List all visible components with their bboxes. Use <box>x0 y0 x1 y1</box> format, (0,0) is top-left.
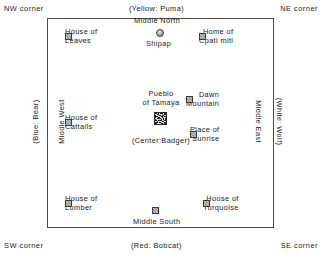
place-entry-house-of-cattails: House of Cattails <box>65 113 97 131</box>
clan-label-west: (Blue: Bear) <box>31 92 40 152</box>
place-entry-home-of-cpati-miti: Home of Cpati miti <box>199 27 233 45</box>
square-marker-icon-house-of-lumber <box>65 200 72 207</box>
place-entry-house-of-turquoise: House of Turquoise <box>203 194 239 212</box>
corner-label-nw: NW corner <box>4 4 44 13</box>
middle-label-south: Middle South <box>133 217 180 226</box>
square-marker-icon-home-of-cpati-miti <box>199 33 206 40</box>
directional-diagram: NW corner NE corner SW corner SE corner … <box>0 0 322 256</box>
square-marker-icon-place-of-sunrise <box>190 131 197 138</box>
place-entry-dawn-mountain: Dawn Mountain <box>186 90 219 108</box>
pueblo-glyph-icon <box>154 112 167 125</box>
place-label-line1: Dawn <box>199 90 219 99</box>
square-marker-icon-house-of-leaves <box>65 33 72 40</box>
corner-label-ne: NE corner <box>280 4 318 13</box>
corner-label-sw: SW corner <box>4 241 43 250</box>
corner-label-se: SE corner <box>281 241 318 250</box>
center-name-line1: Pueblo <box>148 89 173 98</box>
clan-label-south: (Red: Bobcat) <box>131 241 182 250</box>
place-label-line1: Home of <box>203 27 233 36</box>
square-marker-icon-dawn-mountain <box>186 96 193 103</box>
place-entry-house-of-lumber: House of Lumber <box>65 194 97 212</box>
place-entry-place-of-sunrise: Place of Sunrise <box>190 125 220 143</box>
square-marker-icon-middle-south <box>152 207 159 214</box>
place-entry-house-of-leaves: House of Leaves <box>65 27 97 45</box>
circle-marker-icon-shipap <box>156 29 164 37</box>
middle-label-east: Middle East <box>253 91 262 153</box>
clan-label-east: (White: Wolf) <box>274 92 283 152</box>
square-marker-icon-house-of-turquoise <box>203 200 210 207</box>
middle-label-north: Middle North <box>134 16 180 25</box>
center-clan-label: (Center:Badger) <box>121 136 201 145</box>
center-name-line2: of Tamaya <box>142 98 179 107</box>
place-label-line1: House of <box>206 194 238 203</box>
clan-label-north: (Yellow: Puma) <box>129 4 184 13</box>
place-label-shipap: Shipap <box>146 39 171 48</box>
square-marker-icon-house-of-cattails <box>65 119 72 126</box>
